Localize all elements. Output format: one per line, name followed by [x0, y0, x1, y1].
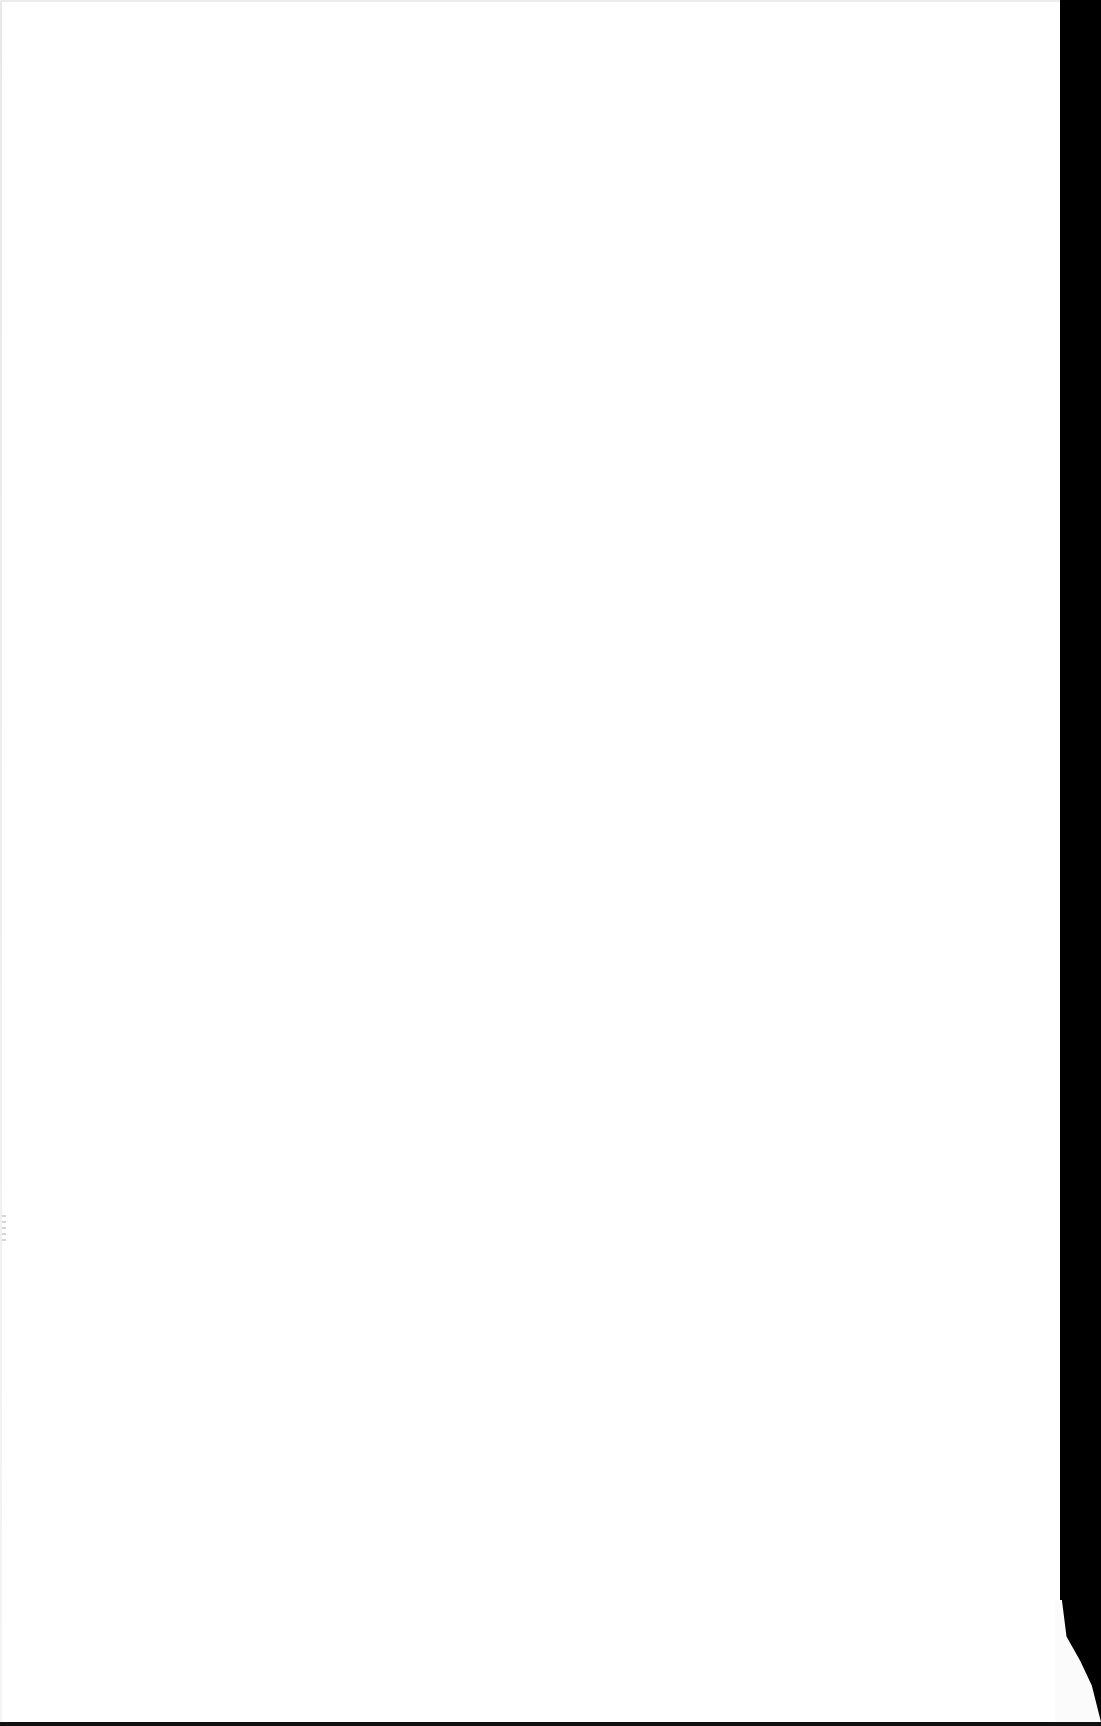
scanner-background-right [1060, 0, 1101, 1726]
scan-specks [2, 1215, 6, 1245]
page-top-edge [0, 0, 1060, 2]
blank-page [0, 0, 1060, 1722]
scanner-background-bottom [0, 1722, 1101, 1726]
page-left-edge [0, 0, 2, 1722]
